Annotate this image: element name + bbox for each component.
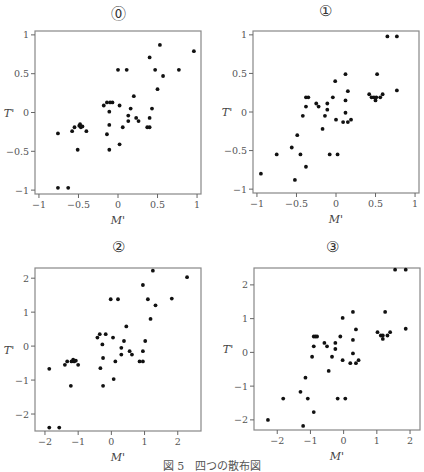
data-point xyxy=(333,79,337,83)
x-tick-label: 0.5 xyxy=(150,199,165,210)
data-point xyxy=(99,366,103,370)
plot-frame xyxy=(253,31,419,193)
data-point xyxy=(325,108,329,112)
scatter-panel-2: ② −2−1012−2−1012M'T' xyxy=(0,236,212,472)
data-point xyxy=(341,358,345,362)
data-point xyxy=(56,132,60,136)
data-point xyxy=(81,125,85,129)
data-point xyxy=(146,297,150,301)
data-point xyxy=(69,384,73,388)
data-point xyxy=(312,344,316,348)
x-tick-label: 2 xyxy=(407,435,413,446)
data-point xyxy=(354,361,358,365)
data-point xyxy=(153,68,157,72)
data-point xyxy=(137,119,141,123)
x-axis-label: M' xyxy=(328,213,343,226)
data-point xyxy=(96,336,100,340)
data-point xyxy=(301,424,305,428)
data-point xyxy=(111,336,115,340)
data-point xyxy=(393,268,397,272)
data-point xyxy=(381,334,385,338)
data-point xyxy=(107,148,111,152)
data-point xyxy=(354,328,358,332)
data-point xyxy=(126,119,130,123)
data-point xyxy=(386,334,390,338)
scatter-plot: −1−0.500.51−1−0.500.51M'T' xyxy=(212,0,424,236)
x-tick-label: −2 xyxy=(270,435,284,446)
scatter-panel-1: ① −1−0.500.51−1−0.500.51M'T' xyxy=(212,0,424,236)
data-point xyxy=(383,310,387,314)
x-tick-label: 1 xyxy=(412,198,418,209)
data-point xyxy=(161,74,165,78)
data-point xyxy=(119,353,123,357)
plot-frame xyxy=(35,31,201,194)
data-point xyxy=(336,397,340,401)
data-point xyxy=(156,87,160,91)
data-point xyxy=(348,361,352,365)
y-axis-label: T' xyxy=(4,107,14,120)
data-point xyxy=(98,332,102,336)
data-point xyxy=(100,343,104,347)
data-point xyxy=(325,344,329,348)
x-tick-label: −1 xyxy=(250,198,264,209)
y-tick-label: 0 xyxy=(23,107,29,118)
data-point xyxy=(129,107,133,111)
scatter-plot: −2−1012−2−1012M'T' xyxy=(212,236,424,472)
data-point xyxy=(149,317,153,321)
data-point xyxy=(351,351,355,355)
data-point xyxy=(119,346,123,350)
data-point xyxy=(299,390,303,394)
data-point xyxy=(395,89,399,93)
data-point xyxy=(325,102,329,106)
data-point xyxy=(63,363,67,367)
data-point xyxy=(336,153,340,157)
data-point xyxy=(290,146,294,150)
data-point xyxy=(259,172,263,176)
data-point xyxy=(317,105,321,109)
scatter-panel-0: ⓪ −1−0.500.51−1−0.500.51M'T' xyxy=(0,0,212,236)
data-point xyxy=(395,35,399,39)
y-tick-label: 0 xyxy=(242,347,248,358)
data-point xyxy=(125,68,129,72)
data-point xyxy=(333,341,337,345)
data-point xyxy=(57,426,61,430)
data-point xyxy=(304,165,308,169)
x-tick-label: 1 xyxy=(194,199,200,210)
data-point xyxy=(293,178,297,182)
data-point xyxy=(266,418,270,422)
x-tick-label: −2 xyxy=(38,436,52,447)
x-tick-label: −1 xyxy=(71,436,85,447)
data-point xyxy=(351,338,355,342)
y-axis-label: T' xyxy=(222,106,232,119)
data-point xyxy=(116,68,120,72)
data-point xyxy=(47,426,51,430)
data-point xyxy=(341,316,345,320)
data-point xyxy=(107,110,111,114)
data-point xyxy=(328,153,332,157)
data-point xyxy=(111,101,115,105)
scatter-plot: −2−1012−2−1012M'T' xyxy=(0,236,212,472)
data-point xyxy=(116,297,120,301)
data-point xyxy=(299,153,303,157)
data-point xyxy=(74,359,78,363)
data-point xyxy=(304,105,308,109)
data-point xyxy=(375,72,379,76)
data-point xyxy=(112,377,116,381)
y-tick-label: 1 xyxy=(242,313,248,324)
y-tick-label: −0.5 xyxy=(6,146,29,157)
data-point xyxy=(346,120,350,124)
data-point xyxy=(381,337,385,341)
y-tick-label: −0.5 xyxy=(224,145,247,156)
data-point xyxy=(141,359,145,363)
data-point xyxy=(404,268,408,272)
data-point xyxy=(346,89,350,93)
data-point xyxy=(378,95,382,99)
x-tick-label: 0 xyxy=(115,199,121,210)
data-point xyxy=(122,339,126,343)
data-point xyxy=(185,275,189,279)
data-point xyxy=(310,355,314,359)
data-point xyxy=(104,332,108,336)
data-point xyxy=(295,133,299,137)
data-point xyxy=(118,142,122,146)
data-point xyxy=(322,341,326,345)
